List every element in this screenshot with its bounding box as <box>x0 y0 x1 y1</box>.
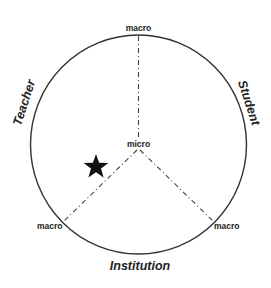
axis-bottom-right <box>140 150 214 222</box>
label-micro-center: micro <box>127 139 150 149</box>
label-teacher: Teacher <box>10 77 38 128</box>
label-institution: Institution <box>110 259 171 273</box>
label-macro-bottom-left: macro <box>37 221 63 231</box>
label-macro-bottom-right: macro <box>214 221 240 231</box>
star-icon <box>84 154 109 178</box>
axis-bottom-left <box>63 150 137 222</box>
label-macro-top: macro <box>126 23 152 33</box>
triad-diagram: macro micro macro macro Teacher Student … <box>0 0 271 288</box>
